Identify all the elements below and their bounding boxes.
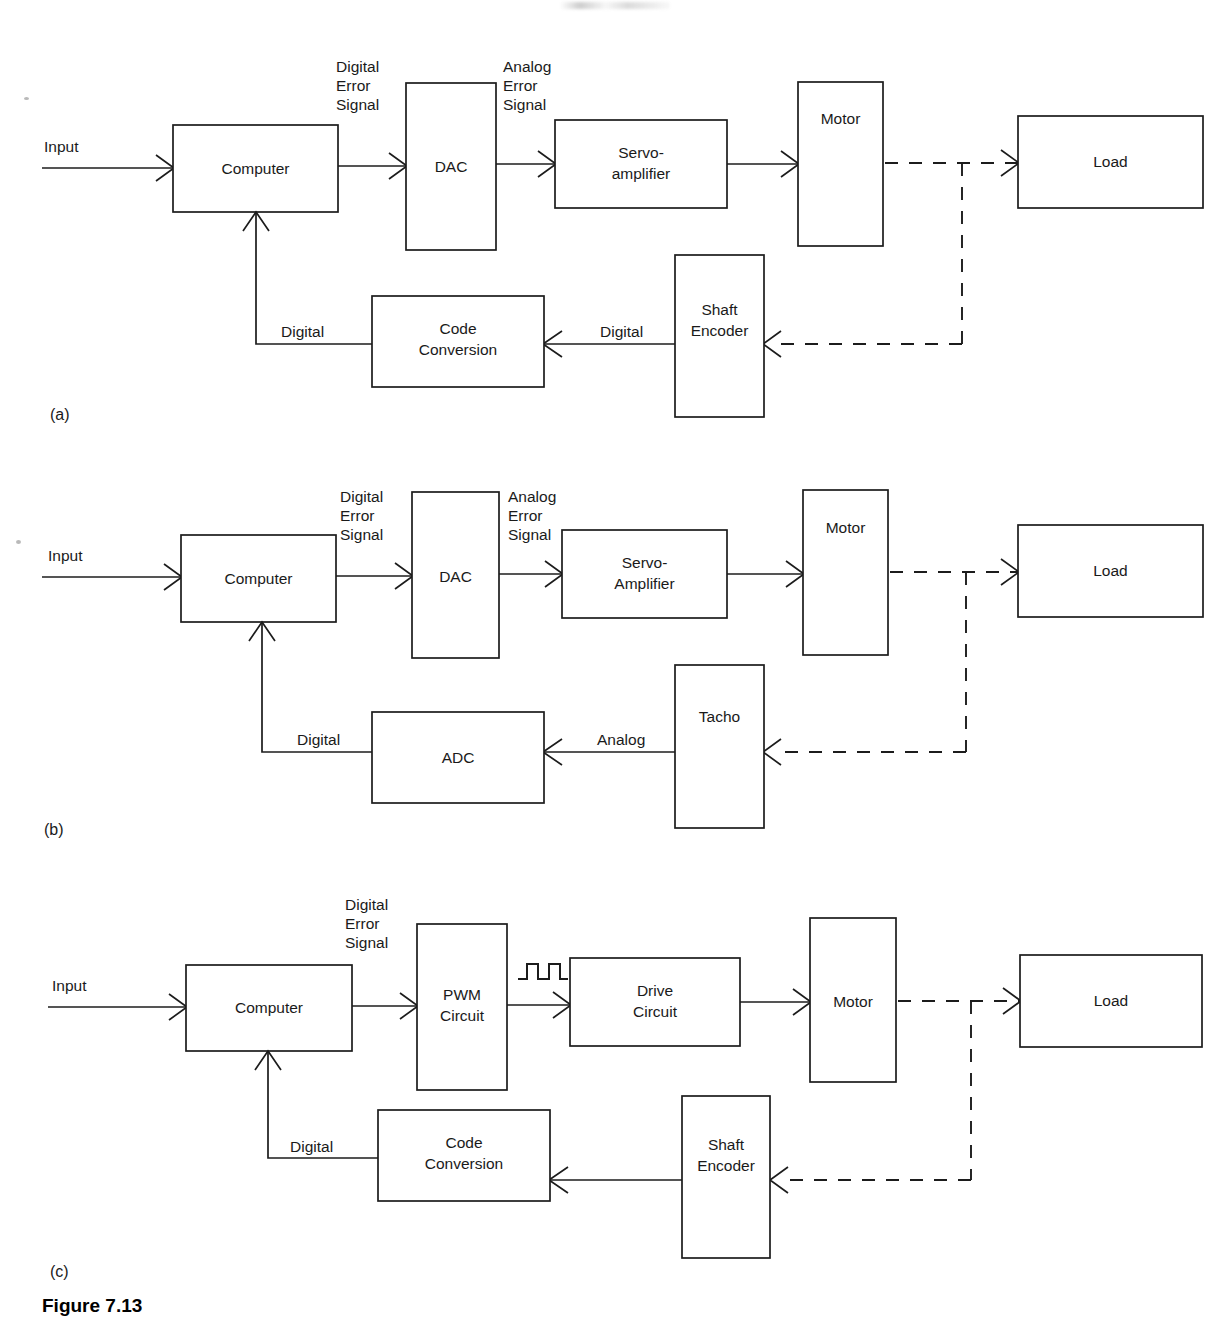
block-label: Motor <box>833 993 873 1010</box>
svg-text:Error: Error <box>503 77 537 94</box>
edge-input-to-computer <box>42 155 174 181</box>
label-feedback-digital-left-a: Digital <box>281 323 324 340</box>
diagram-a: Input Computer Digital Error Signal DAC <box>42 58 1203 423</box>
block-drive-circuit-c: Drive Circuit <box>570 958 740 1046</box>
block-motor-b: Motor <box>803 490 888 655</box>
svg-text:Digital: Digital <box>340 488 383 505</box>
block-load-a: Load <box>1018 116 1203 208</box>
block-motor-c: Motor <box>810 918 896 1082</box>
sublabel-c: (c) <box>50 1263 69 1280</box>
block-label: Load <box>1093 153 1127 170</box>
edge-servo-to-motor-a <box>727 151 799 177</box>
block-label: amplifier <box>612 165 671 182</box>
svg-text:Digital: Digital <box>336 58 379 75</box>
figure-root: Input Computer Digital Error Signal DAC <box>0 0 1225 1319</box>
block-servo-amplifier-b: Servo- Amplifier <box>562 530 727 618</box>
block-label: PWM <box>443 986 481 1003</box>
svg-text:Error: Error <box>345 915 379 932</box>
block-label: Computer <box>221 160 289 177</box>
svg-text:Signal: Signal <box>345 934 388 951</box>
label-digital-error-signal-b: Digital Error Signal <box>340 488 383 543</box>
block-adc-b: ADC <box>372 712 544 803</box>
edge-encoder-to-code-c <box>549 1167 682 1193</box>
label-feedback-analog-right-b: Analog <box>597 731 645 748</box>
block-label: Motor <box>826 519 866 536</box>
block-label: Drive <box>637 982 673 999</box>
block-label: Amplifier <box>614 575 674 592</box>
figure-caption: Figure 7.13 <box>42 1295 142 1316</box>
svg-text:Signal: Signal <box>508 526 551 543</box>
svg-text:Analog: Analog <box>503 58 551 75</box>
edge-motor-to-load-b <box>890 559 1019 585</box>
block-label: Code <box>439 320 476 337</box>
block-label: Load <box>1093 562 1127 579</box>
svg-text:Error: Error <box>340 507 374 524</box>
svg-text:Signal: Signal <box>336 96 379 113</box>
block-label: Encoder <box>697 1157 755 1174</box>
block-servo-amplifier-a: Servo- amplifier <box>555 120 727 208</box>
block-motor-a: Motor <box>798 82 883 246</box>
label-digital-error-signal-a: Digital Error Signal <box>336 58 379 113</box>
block-label: Servo- <box>622 554 668 571</box>
block-label: Computer <box>235 999 303 1016</box>
block-code-conversion-a: Code Conversion <box>372 296 544 387</box>
label-analog-error-signal-b: Analog Error Signal <box>508 488 556 543</box>
svg-text:Signal: Signal <box>340 526 383 543</box>
svg-text:Signal: Signal <box>503 96 546 113</box>
svg-text:Analog: Analog <box>508 488 556 505</box>
block-computer-a: Computer <box>173 125 338 212</box>
edge-servo-to-motor-b <box>727 561 804 587</box>
block-label: ADC <box>442 749 475 766</box>
edge-dac-to-servo-a <box>496 151 556 177</box>
block-label: Conversion <box>419 341 497 358</box>
edge-motor-to-load-c <box>898 988 1021 1014</box>
edge-computer-to-pwm-c <box>352 993 418 1019</box>
sublabel-b: (b) <box>44 821 64 838</box>
figure-canvas: Input Computer Digital Error Signal DAC <box>0 0 1225 1319</box>
block-label: Computer <box>224 570 292 587</box>
block-label: Shaft <box>701 301 738 318</box>
block-shaft-encoder-c: Shaft Encoder <box>682 1096 770 1258</box>
block-computer-b: Computer <box>181 535 336 622</box>
svg-text:Error: Error <box>508 507 542 524</box>
block-label: Servo- <box>618 144 664 161</box>
edge-input-to-computer-c <box>48 994 187 1020</box>
label-feedback-digital-left-c: Digital <box>290 1138 333 1155</box>
block-label: Code <box>445 1134 482 1151</box>
block-computer-c: Computer <box>186 965 352 1051</box>
edge-drive-to-motor-c <box>740 989 811 1015</box>
block-load-b: Load <box>1018 525 1203 617</box>
block-dac-b: DAC <box>412 492 499 658</box>
block-pwm-circuit-c: PWM Circuit <box>417 924 507 1090</box>
edge-dac-to-servo-b <box>499 561 563 587</box>
block-label: Circuit <box>633 1003 678 1020</box>
block-tacho-b: Tacho <box>675 665 764 828</box>
label-feedback-digital-left-b: Digital <box>297 731 340 748</box>
block-label: Shaft <box>708 1136 745 1153</box>
label-analog-error-signal-a: Analog Error Signal <box>503 58 551 113</box>
label-digital-error-signal-c: Digital Error Signal <box>345 896 388 951</box>
block-load-c: Load <box>1020 955 1202 1047</box>
block-label: Encoder <box>691 322 749 339</box>
pwm-pulse-waveform-icon <box>518 964 568 979</box>
edge-input-to-computer-b <box>42 564 182 590</box>
svg-text:Error: Error <box>336 77 370 94</box>
edge-pwm-to-drive-c <box>507 992 571 1018</box>
label-input-c: Input <box>52 977 87 994</box>
label-feedback-digital-right-a: Digital <box>600 323 643 340</box>
block-label: DAC <box>435 158 468 175</box>
block-label: Conversion <box>425 1155 503 1172</box>
block-label: Load <box>1094 992 1128 1009</box>
block-label: Circuit <box>440 1007 485 1024</box>
block-code-conversion-c: Code Conversion <box>378 1110 550 1201</box>
edge-computer-to-dac-a <box>338 153 407 179</box>
block-label: DAC <box>439 568 472 585</box>
svg-text:Digital: Digital <box>345 896 388 913</box>
block-shaft-encoder-a: Shaft Encoder <box>675 255 764 417</box>
diagram-b: Input Computer Digital Error Signal DAC <box>42 488 1203 838</box>
edge-computer-to-dac-b <box>336 563 413 589</box>
label-input-b: Input <box>48 547 83 564</box>
edge-motor-to-load-a <box>885 150 1019 176</box>
label-input-a: Input <box>44 138 79 155</box>
block-label: Tacho <box>699 708 740 725</box>
